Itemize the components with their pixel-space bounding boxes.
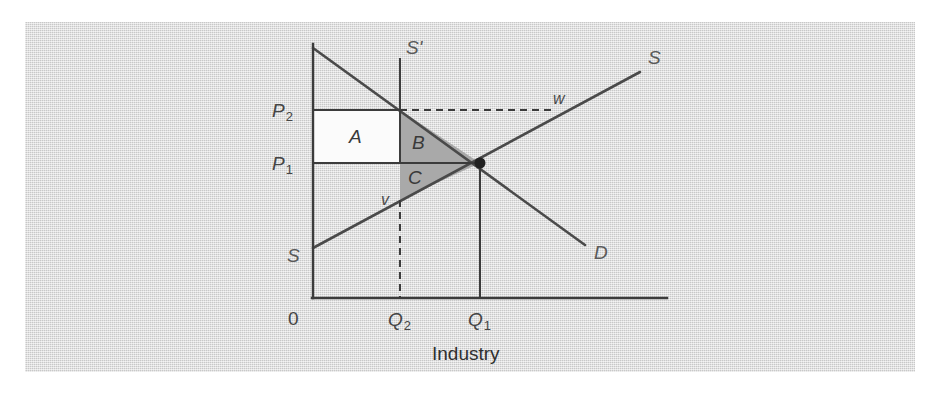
supply-curve-label-left: S	[287, 246, 300, 265]
origin-label: 0	[288, 309, 299, 328]
point-label-w: w	[553, 91, 565, 107]
supply-shifted-curve-label: S'	[406, 38, 422, 57]
region-label-a: A	[349, 127, 362, 146]
x-axis-label-q1: Q1	[468, 310, 490, 329]
region-label-c: C	[408, 168, 422, 187]
y-axis-label-p2: P2	[272, 101, 292, 120]
equilibrium-point-dot	[475, 158, 486, 169]
supply-curve-label-right: S	[648, 48, 661, 67]
point-label-v: v	[381, 192, 389, 208]
chart-canvas	[0, 0, 940, 394]
figure-root: P2 P1 Q2 Q1 0 S S S' D A B C w v Industr…	[0, 0, 940, 394]
region-label-b: B	[412, 133, 425, 152]
figure-caption: Industry	[432, 344, 500, 363]
demand-curve-label: D	[594, 243, 608, 262]
y-axis-label-p1: P1	[272, 154, 292, 173]
x-axis-label-q2: Q2	[388, 310, 410, 329]
